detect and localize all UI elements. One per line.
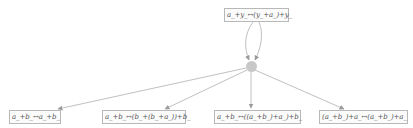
edge-top-to-hub-1: [246, 22, 253, 60]
edge-hub-to-node-1: [58, 68, 246, 109]
top-node: a_+y_↔(y_+a_)+y_: [224, 8, 289, 22]
bottom-node-3: a_+b_↔((a_+b_)+a_)+b_: [214, 110, 301, 124]
edge-hub-to-node-2: [165, 70, 247, 109]
edge-top-to-hub-2: [255, 22, 262, 60]
bottom-node-4: (a_+b_)+a_↔(a_+b_)+a_: [319, 110, 408, 124]
graph-edges: [0, 0, 413, 128]
hub-node-circle: [246, 61, 257, 72]
bottom-node-2: a_+b_↔(b_+(b_+a_))+b_: [102, 110, 186, 124]
edge-hub-to-node-4: [255, 70, 344, 109]
bottom-node-1: a_+b_↔a_+b_: [9, 110, 61, 124]
